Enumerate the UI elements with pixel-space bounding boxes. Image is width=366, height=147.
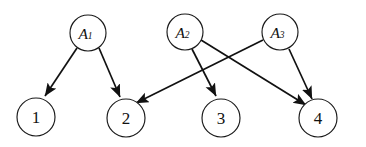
node-4-label: 4 bbox=[314, 109, 323, 128]
bipartite-graph: A1 A2 A3 1 2 bbox=[0, 0, 366, 147]
node-3-label: 3 bbox=[217, 109, 226, 128]
node-a1-label-main: A bbox=[77, 24, 88, 41]
node-1[interactable]: 1 bbox=[17, 98, 55, 136]
node-a1-label-subscript: 1 bbox=[88, 31, 93, 41]
edge-a3-to-2 bbox=[136, 40, 263, 103]
node-a3[interactable]: A3 bbox=[262, 14, 298, 50]
node-a2-label-subscript: 2 bbox=[185, 30, 190, 40]
node-3[interactable]: 3 bbox=[202, 99, 240, 137]
node-a1[interactable]: A1 bbox=[70, 15, 106, 51]
node-a3-label-subscript: 3 bbox=[279, 30, 285, 40]
diagram-canvas: A1 A2 A3 1 2 bbox=[0, 0, 366, 147]
top-node-group: A1 A2 A3 bbox=[70, 14, 298, 51]
edge-a1-to-1 bbox=[45, 48, 77, 96]
node-a3-label-main: A bbox=[269, 23, 280, 40]
bottom-node-group: 1 2 3 4 bbox=[17, 98, 337, 137]
edge-a1-to-2 bbox=[99, 48, 120, 97]
node-a2[interactable]: A2 bbox=[167, 14, 203, 50]
node-1-label: 1 bbox=[32, 108, 41, 127]
node-2-label: 2 bbox=[122, 109, 131, 128]
node-4[interactable]: 4 bbox=[299, 99, 337, 137]
edge-a3-to-4 bbox=[289, 49, 312, 99]
node-2[interactable]: 2 bbox=[107, 99, 145, 137]
node-a2-label-main: A bbox=[174, 23, 185, 40]
